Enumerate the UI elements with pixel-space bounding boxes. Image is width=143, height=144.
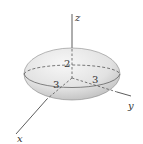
x-axis-outer: [16, 99, 47, 134]
y-axis-label: y: [127, 100, 134, 111]
z-intercept-label: 2: [64, 58, 70, 69]
y-axis-outer: [117, 92, 131, 96]
y-intercept-label: 3: [92, 74, 98, 85]
x-axis-label: x: [17, 133, 23, 144]
ellipsoid-diagram: z y x 2 3 3: [0, 0, 143, 144]
x-intercept-label: 3: [53, 79, 59, 90]
z-axis-label: z: [74, 12, 81, 23]
